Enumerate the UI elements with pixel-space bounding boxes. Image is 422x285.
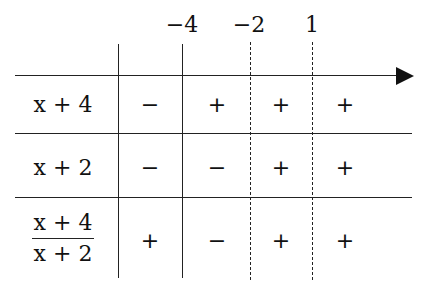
sign-cell: + (261, 230, 301, 252)
sign-cell: + (261, 157, 301, 179)
label-column-divider (118, 44, 119, 278)
critical-line-minus-2 (250, 42, 251, 280)
axis-value-1: 1 (292, 14, 332, 36)
row-label-x-plus-2: x + 2 (8, 157, 118, 179)
sign-cell: + (325, 157, 365, 179)
sign-cell: − (130, 157, 170, 179)
sign-cell: + (130, 230, 170, 252)
axis-arrow-icon (396, 67, 414, 85)
sign-cell: − (130, 94, 170, 116)
critical-line-minus-4 (182, 44, 183, 278)
row-divider-1 (15, 133, 412, 134)
axis-value-minus-2: −2 (229, 14, 269, 36)
sign-cell: + (261, 94, 301, 116)
axis-value-minus-4: −4 (162, 14, 202, 36)
row-label-x-plus-4: x + 4 (8, 94, 118, 116)
row-divider-2 (15, 197, 412, 198)
sign-cell: − (197, 157, 237, 179)
number-line-axis (15, 75, 400, 76)
sign-cell: + (325, 230, 365, 252)
fraction-numerator: x + 4 (32, 212, 95, 239)
sign-cell: − (197, 230, 237, 252)
sign-cell: + (325, 94, 365, 116)
sign-cell: + (197, 94, 237, 116)
fraction-denominator: x + 2 (8, 239, 118, 265)
critical-line-1 (312, 42, 313, 280)
row-label-quotient: x + 4 x + 2 (8, 212, 118, 265)
